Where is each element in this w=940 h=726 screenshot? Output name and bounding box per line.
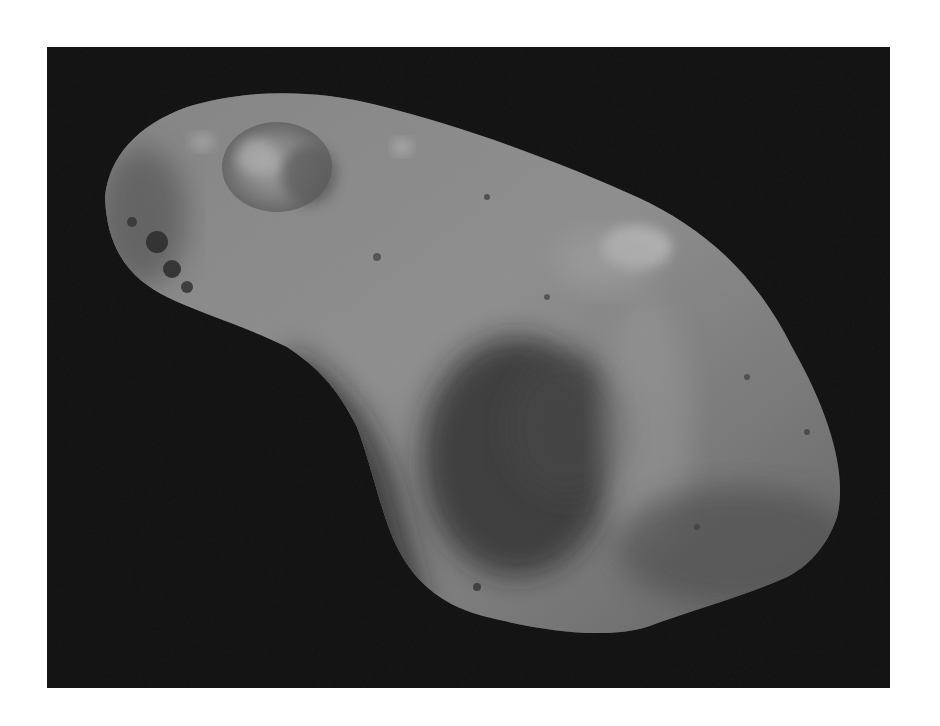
- asteroid-photo: Grayscale photograph of an elongated, cr…: [47, 47, 890, 688]
- asteroid-illustration: [47, 47, 890, 688]
